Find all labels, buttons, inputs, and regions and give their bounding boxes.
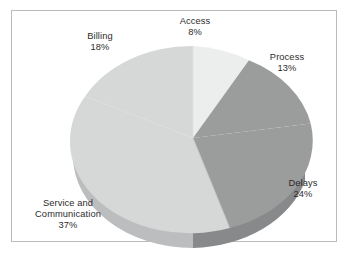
pie-label-delays-name: Delays: [288, 178, 317, 188]
pie-label-process-value: 13%: [250, 63, 324, 74]
pie-label-service-value: 37%: [8, 220, 128, 231]
pie-label-access-name: Access: [180, 16, 211, 26]
pie-label-billing-value: 18%: [65, 42, 135, 53]
pie-label-service: Service and Communication 37%: [8, 198, 128, 232]
pie-label-billing: Billing 18%: [65, 31, 135, 53]
pie-label-service-name-line1: Service and: [43, 198, 93, 208]
pie-label-delays-value: 24%: [268, 189, 338, 200]
pie-label-service-name-line2: Communication: [8, 209, 128, 220]
pie-label-access-value: 8%: [160, 27, 230, 38]
pie-label-access: Access 8%: [160, 16, 230, 38]
pie-label-process-name: Process: [270, 52, 304, 62]
pie-label-billing-name: Billing: [87, 31, 113, 41]
pie-label-process: Process 13%: [250, 52, 324, 74]
pie-label-delays: Delays 24%: [268, 178, 338, 200]
